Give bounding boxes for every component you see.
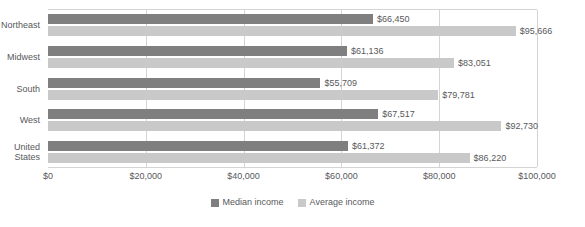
- bar-average: $95,666: [48, 26, 516, 36]
- x-tick-label: $20,000: [130, 172, 163, 181]
- legend-item[interactable]: Average income: [298, 198, 375, 207]
- legend-swatch-icon: [298, 199, 306, 207]
- x-tick-label: $60,000: [325, 172, 358, 181]
- bar-group: $61,372$86,220: [48, 137, 537, 169]
- bar-value-label: $92,730: [505, 122, 538, 131]
- bar-value-label: $61,136: [351, 46, 384, 55]
- bar-value-label: $86,220: [474, 154, 507, 163]
- bar-median: $67,517: [48, 109, 378, 119]
- bar-average: $92,730: [48, 121, 501, 131]
- x-tick-label: $0: [43, 172, 53, 181]
- bar-value-label: $83,051: [458, 58, 491, 67]
- bar-median: $55,709: [48, 78, 320, 88]
- category-label: Northeast: [0, 20, 40, 30]
- bar-value-label: $66,450: [377, 15, 410, 24]
- category-label: South: [0, 84, 40, 94]
- chart-legend: Median incomeAverage income: [0, 198, 585, 207]
- plot-area: $66,450$95,666$61,136$83,051$55,709$79,7…: [48, 9, 537, 168]
- bar-value-label: $55,709: [324, 78, 357, 87]
- category-label: Midwest: [0, 52, 40, 62]
- income-bar-chart: $66,450$95,666$61,136$83,051$55,709$79,7…: [0, 0, 585, 227]
- bar-group: $55,709$79,781: [48, 74, 537, 106]
- bar-average: $83,051: [48, 58, 454, 68]
- bar-group: $67,517$92,730: [48, 105, 537, 137]
- bar-median: $61,136: [48, 46, 347, 56]
- bar-value-label: $95,666: [520, 27, 553, 36]
- bar-value-label: $67,517: [382, 110, 415, 119]
- x-tick-label: $40,000: [227, 172, 260, 181]
- bar-value-label: $61,372: [352, 142, 385, 151]
- bar-average: $86,220: [48, 153, 470, 163]
- bar-median: $61,372: [48, 141, 348, 151]
- x-tick-label: $80,000: [423, 172, 456, 181]
- legend-swatch-icon: [211, 199, 219, 207]
- legend-label: Median income: [223, 198, 284, 207]
- category-label: United States: [0, 142, 40, 162]
- bar-average: $79,781: [48, 90, 438, 100]
- legend-label: Average income: [310, 198, 375, 207]
- bar-median: $66,450: [48, 14, 373, 24]
- bar-value-label: $79,781: [442, 90, 475, 99]
- bar-group: $61,136$83,051: [48, 42, 537, 74]
- x-tick-label: $100,000: [518, 172, 556, 181]
- legend-item[interactable]: Median income: [211, 198, 284, 207]
- bar-group: $66,450$95,666: [48, 10, 537, 42]
- category-label: West: [0, 115, 40, 125]
